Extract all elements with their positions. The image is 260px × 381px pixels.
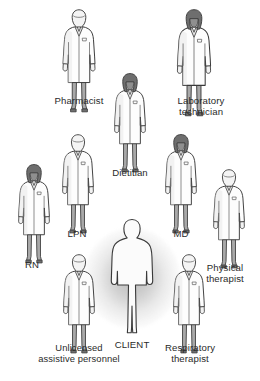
figure-dietitian[interactable] [104, 72, 156, 174]
label-dietitian: Dietitian [85, 167, 175, 178]
staff-figure-icon [115, 74, 146, 172]
label-physical-therapist: Physical therapist [190, 262, 260, 284]
staff-figure-icon [166, 135, 197, 233]
figure-lpn[interactable] [52, 133, 104, 235]
label-rn: RN [0, 259, 64, 270]
label-client: CLIENT [89, 339, 175, 350]
label-laboratory-technician: Laboratory technician [155, 95, 247, 117]
staff-figure-icon [63, 135, 94, 233]
diagram-canvas: use{} [0, 0, 260, 381]
label-md: MD [138, 228, 224, 239]
label-pharmacist: Pharmacist [29, 95, 129, 106]
staff-figure-icon [19, 165, 50, 263]
label-lpn: LPN [32, 228, 122, 239]
staff-figure-icon [214, 170, 245, 268]
